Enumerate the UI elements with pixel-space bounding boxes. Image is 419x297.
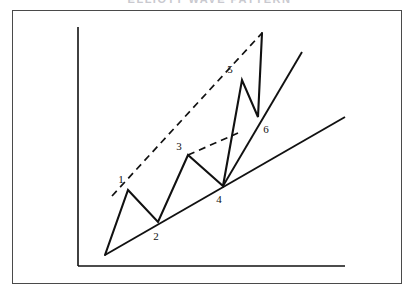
impulse-zigzag-path-group [105, 33, 262, 255]
lower-trend-line [105, 117, 345, 255]
wave-label-3: 3 [176, 140, 182, 152]
trend-lines-group [105, 52, 345, 255]
wave-label-5: 5 [227, 63, 233, 75]
axes-group [78, 27, 345, 266]
wave-label-6: 6 [263, 123, 269, 135]
figure-root: ELLIOTT WAVE PATTERN 1 2 3 4 5 6 [0, 0, 419, 297]
dashed-projection-group [112, 33, 262, 196]
upper-channel-dashed-line [112, 33, 262, 196]
impulse-zigzag-path [105, 33, 262, 255]
wave-label-1: 1 [118, 173, 124, 185]
wave-diagram-svg: 1 2 3 4 5 6 [0, 0, 419, 297]
wave-label-2: 2 [153, 230, 159, 242]
wave-label-4: 4 [216, 193, 222, 205]
